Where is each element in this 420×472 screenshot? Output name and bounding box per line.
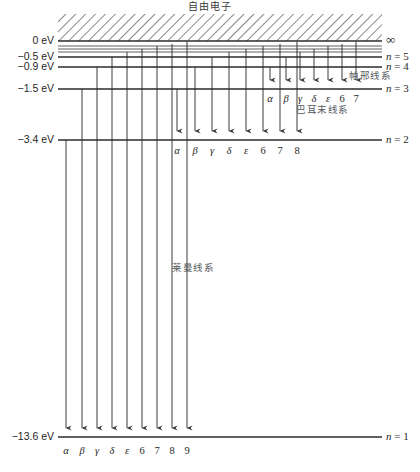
energy-level-diagram: 自由电子 0 eV−0.5 eVn = 5−0.9 eVn = 4−1.5 eV… — [0, 0, 420, 472]
free-electron-region — [58, 14, 382, 41]
spectral-line-label-lyman-8: 8 — [169, 445, 174, 456]
series-name-paschen: 帕邢线系 — [349, 70, 391, 81]
spectral-line-label-lyman-δ: δ — [110, 445, 116, 456]
energy-value-label-zero: 0 eV — [32, 34, 54, 46]
energy-value-label-n2: −3.4 eV — [18, 133, 55, 145]
spectral-line-label-balmer-δ: δ — [227, 145, 233, 156]
spectral-line-label-balmer-8: 8 — [294, 145, 299, 156]
quantum-number-label-n3: n = 3 — [386, 82, 409, 94]
spectral-line-label-lyman-6: 6 — [139, 445, 144, 456]
energy-value-label-n3: −1.5 eV — [18, 82, 55, 94]
spectral-line-label-lyman-β: β — [78, 445, 85, 456]
spectral-line-label-balmer-γ: γ — [210, 145, 215, 156]
spectral-line-label-balmer-7: 7 — [277, 145, 282, 156]
spectral-line-label-lyman-9: 9 — [184, 445, 189, 456]
bohr-energy-level-svg: 自由电子 0 eV−0.5 eVn = 5−0.9 eVn = 4−1.5 eV… — [0, 0, 420, 472]
quantum-number-label-n2: n = 2 — [386, 133, 409, 145]
spectral-line-label-paschen-β: β — [282, 93, 289, 104]
energy-value-label-n1: −13.6 eV — [12, 430, 54, 442]
series-name-lyman: 莱曼线系 — [172, 262, 214, 273]
energy-labels-group: 0 eV−0.5 eVn = 5−0.9 eVn = 4−1.5 eVn = 3… — [12, 34, 410, 442]
spectral-line-label-balmer-6: 6 — [260, 145, 265, 156]
energy-levels-group — [58, 41, 382, 437]
quantum-number-label-n1: n = 1 — [386, 430, 409, 442]
spectral-line-label-balmer-ε: ε — [244, 145, 249, 156]
spectral-line-label-lyman-γ: γ — [95, 445, 100, 456]
spectral-line-label-balmer-α: α — [174, 145, 180, 156]
spectral-line-label-lyman-α: α — [63, 445, 69, 456]
continuum-band — [58, 14, 382, 41]
infinity-label: ∞ — [386, 32, 395, 47]
free-electron-title: 自由电子 — [188, 0, 233, 12]
energy-value-label-n4: −0.9 eV — [18, 60, 55, 72]
spectral-line-label-balmer-β: β — [191, 145, 198, 156]
spectral-line-labels-group: αβγδε67αβγδε678αβγδε6789 — [63, 93, 358, 456]
spectral-line-label-paschen-6: 6 — [339, 93, 344, 104]
spectral-line-label-paschen-α: α — [267, 93, 273, 104]
spectral-line-label-lyman-7: 7 — [154, 445, 159, 456]
spectral-line-label-paschen-7: 7 — [353, 93, 358, 104]
series-name-balmer: 巴耳末线系 — [296, 104, 349, 115]
spectral-line-label-lyman-ε: ε — [125, 445, 130, 456]
